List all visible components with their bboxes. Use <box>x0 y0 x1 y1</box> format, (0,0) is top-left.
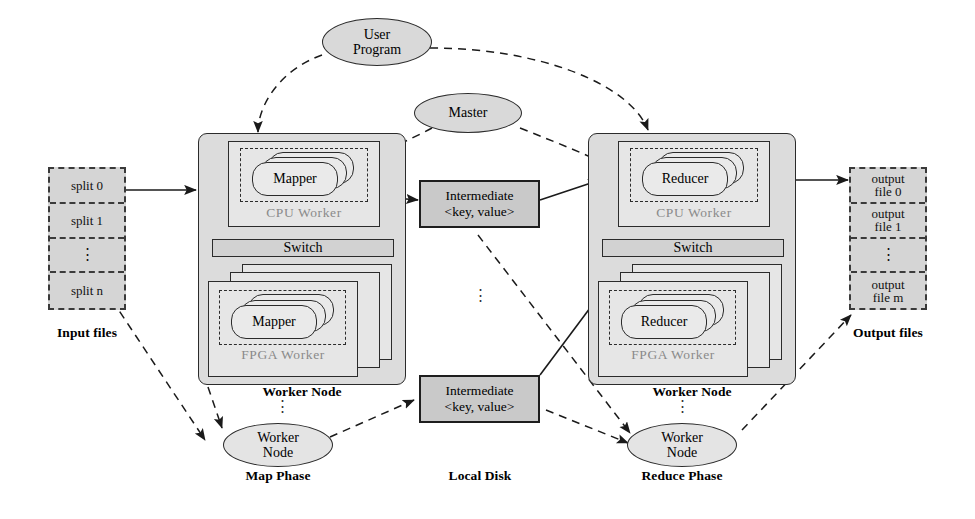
input-files-caption: Input files <box>22 326 152 340</box>
local-disk-caption: Local Disk <box>415 469 545 483</box>
map-node-ellipsis: ⋮ <box>272 401 292 413</box>
map-fpga-worker-label: FPGA Worker <box>208 347 358 363</box>
reduce-phase-caption: Reduce Phase <box>617 469 747 483</box>
reduce-switch[interactable]: Switch <box>602 239 784 257</box>
intermediate-bottom-line1: Intermediate <box>445 383 513 399</box>
master-ellipse[interactable]: Master <box>414 93 522 133</box>
map-switch[interactable]: Switch <box>212 239 394 257</box>
dash-map-worker-to-intermediate <box>330 400 414 437</box>
reduce-fpga-task-label: Reducer <box>621 305 707 339</box>
reduce-fpga-worker-label: FPGA Worker <box>598 347 748 363</box>
reduce-bottom-worker-node[interactable]: Worker Node <box>627 423 737 467</box>
input-file-ellipsis: ⋮ <box>50 239 124 274</box>
reduce-cpu-worker-label: CPU Worker <box>618 205 770 221</box>
intermediate-box-bottom[interactable]: Intermediate <key, value> <box>419 375 540 423</box>
reduce-node-ellipsis: ⋮ <box>672 401 692 413</box>
input-file-cell[interactable]: split 0 <box>50 169 124 204</box>
input-file-cell[interactable]: split 1 <box>50 204 124 239</box>
dash-userprogram-to-map-node <box>258 55 322 132</box>
intermediate-top-line2: <key, value> <box>445 204 515 220</box>
map-cpu-worker-label: CPU Worker <box>228 205 380 221</box>
reduce-worker-node-caption: Worker Node <box>612 385 772 399</box>
output-file-cell[interactable]: output file 1 <box>851 204 925 239</box>
intermediate-bottom-line2: <key, value> <box>445 399 515 415</box>
map-bottom-worker-node[interactable]: Worker Node <box>223 423 333 467</box>
output-files-caption: Output files <box>823 326 953 340</box>
intermediate-box-top[interactable]: Intermediate <key, value> <box>419 180 540 228</box>
user-program-ellipse[interactable]: User Program <box>322 18 432 66</box>
map-worker-node-caption: Worker Node <box>222 385 382 399</box>
map-mapper-label: Mapper <box>252 162 338 196</box>
dash-split-to-map-worker <box>112 300 205 440</box>
reduce-reducer-label: Reducer <box>642 162 728 196</box>
connector-layer <box>0 0 975 519</box>
output-file-cell[interactable]: output file 0 <box>851 169 925 204</box>
intermediate-top-line1: Intermediate <box>445 188 513 204</box>
dash-map-node-to-worker <box>208 387 222 428</box>
input-files-stack: split 0 split 1 ⋮ split n <box>48 167 126 310</box>
input-file-cell[interactable]: split n <box>50 273 124 308</box>
output-file-ellipsis: ⋮ <box>851 239 925 274</box>
map-fpga-task-label: Mapper <box>231 305 317 339</box>
output-file-cell[interactable]: output file m <box>851 273 925 308</box>
output-files-stack: output file 0 output file 1 ⋮ output fil… <box>849 167 927 310</box>
diagram-canvas: split 0 split 1 ⋮ split n Input files Ma… <box>0 0 975 519</box>
map-phase-caption: Map Phase <box>213 469 343 483</box>
local-disk-ellipsis: ⋮ <box>470 290 490 302</box>
dash-intermediate-bottom-to-reduce-worker <box>546 410 628 443</box>
